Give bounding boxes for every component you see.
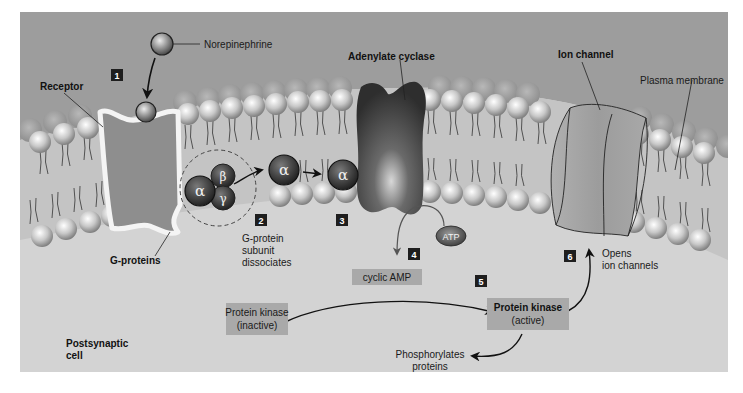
- g-protein-dissociates-line-2: subunit: [242, 245, 274, 256]
- ion-channel-label: Ion channel: [558, 49, 614, 60]
- norepinephrine-bound-icon: [136, 102, 156, 122]
- protein-kinase-active-line-1: Protein kinase: [494, 302, 563, 313]
- adenylate-cyclase-protein: [357, 82, 426, 215]
- alpha-free-label: α: [279, 161, 289, 179]
- postsynaptic-cell-line-1: Postsynaptic: [66, 338, 129, 349]
- beta-label: β: [220, 170, 227, 184]
- ion-channel-protein: [551, 104, 647, 236]
- norepinephrine-icon: [151, 33, 173, 55]
- norepinephrine-label: Norepinephrine: [204, 39, 273, 50]
- g-protein-dissociates-line-3: dissociates: [242, 257, 291, 268]
- phosphorylates-proteins-line-1: Phosphorylates: [396, 349, 465, 360]
- step-2-label: 2: [258, 216, 263, 226]
- step-6-label: 6: [567, 252, 572, 262]
- step-1-label: 1: [114, 71, 119, 81]
- diagram-panel: [18, 12, 740, 372]
- atp-label: ATP: [443, 232, 460, 242]
- g-protein-signaling-diagram: α β γ α α 1 2 3 4 5 6 Norepinephrine Rec…: [0, 0, 743, 393]
- receptor-protein: [100, 111, 180, 233]
- protein-kinase-inactive-line-1: Protein kinase: [225, 307, 289, 318]
- cyclic-amp-label: cyclic AMP: [363, 272, 412, 283]
- opens-ion-channels-line-2: ion channels: [602, 260, 658, 271]
- adenylate-cyclase-label: Adenylate cyclase: [348, 51, 435, 62]
- alpha-label: α: [195, 182, 205, 200]
- g-protein-dissociates-line-1: G-protein: [242, 233, 284, 244]
- protein-kinase-active-line-2: (active): [512, 315, 545, 326]
- phosphorylates-proteins-line-2: proteins: [412, 361, 448, 372]
- opens-ion-channels-line-1: Opens: [602, 248, 631, 259]
- postsynaptic-cell-line-2: cell: [66, 350, 83, 361]
- receptor-label: Receptor: [40, 81, 83, 92]
- plasma-membrane-label: Plasma membrane: [640, 75, 724, 86]
- protein-kinase-inactive-line-2: (inactive): [237, 320, 278, 331]
- g-proteins-label: G-proteins: [110, 255, 161, 266]
- alpha-bound-label: α: [338, 166, 348, 184]
- step-3-label: 3: [339, 216, 344, 226]
- step-5-label: 5: [478, 277, 483, 287]
- gamma-label: γ: [219, 192, 226, 206]
- step-4-label: 4: [411, 250, 416, 260]
